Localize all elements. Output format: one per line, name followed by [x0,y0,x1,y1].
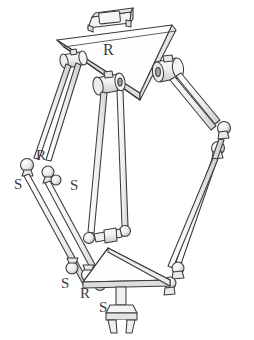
label-left-upper-revolute: R [36,147,46,163]
moving-platform [83,248,170,288]
label-platform-left-spherical: S [61,275,69,291]
label-platform-revolute: R [80,285,90,301]
spherical-joint-left-outer [21,159,34,177]
base-mount-block [88,8,133,32]
label-left-inner-spherical: S [70,177,78,193]
gripper-end-effector [106,287,137,333]
spherical-joint-right-upper [218,122,231,140]
label-left-outer-spherical: S [14,176,22,192]
label-platform-lower-spherical: S [99,299,107,315]
delta-robot-diagram: R R S S S R S [0,0,254,340]
label-base-revolute: R [103,41,114,58]
limb-center [84,90,131,244]
limb-right [164,73,231,295]
revolute-actuator-left [59,49,88,69]
spherical-joint-left-inner [42,166,61,185]
figure-root: R R S S S R S [0,0,254,340]
spherical-joint-platform-left [66,258,78,274]
